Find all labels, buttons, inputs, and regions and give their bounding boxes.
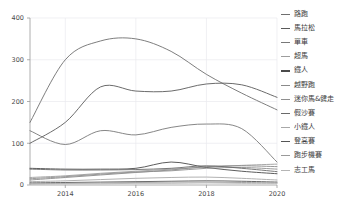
legend-label: 路跑	[294, 11, 308, 18]
y-tick-label: 300	[12, 56, 24, 64]
x-tick-label: 2018	[198, 190, 215, 198]
y-tick-label: 100	[12, 140, 24, 148]
legend-label: 鐵人	[294, 67, 308, 74]
legend-line-swatch	[281, 56, 290, 57]
legend-line-swatch	[281, 113, 290, 114]
legend-label: 小鐵人	[294, 124, 315, 131]
legend-line-swatch	[281, 141, 290, 142]
legend-label: 迷你馬&健走	[294, 96, 334, 103]
legend-line-swatch	[281, 42, 290, 43]
legend-label: 越野跑	[294, 82, 315, 89]
legend-item[interactable]: 登高賽	[281, 135, 347, 149]
x-tick-label: 2014	[57, 190, 74, 198]
legend-line-swatch	[281, 170, 290, 171]
chart-legend: 路跑馬拉松單車超馬鐵人越野跑迷你馬&健走假沙賽小鐵人登高賽跑步機賽志工馬	[281, 7, 347, 177]
series-line	[30, 38, 277, 123]
legend-line-swatch	[281, 155, 290, 156]
legend-item[interactable]: 迷你馬&健走	[281, 92, 347, 106]
legend-item[interactable]: 路跑	[281, 7, 347, 21]
legend-item[interactable]: 跑步機賽	[281, 149, 347, 163]
legend-line-swatch	[281, 14, 290, 15]
legend-item[interactable]: 馬拉松	[281, 21, 347, 35]
legend-line-swatch	[281, 99, 290, 100]
legend-label: 假沙賽	[294, 110, 315, 117]
legend-label: 超馬	[294, 53, 308, 60]
legend-item[interactable]: 假沙賽	[281, 106, 347, 120]
x-tick-label: 2016	[128, 190, 145, 198]
legend-label: 單車	[294, 39, 308, 46]
legend-item[interactable]: 超馬	[281, 50, 347, 64]
legend-item[interactable]: 越野跑	[281, 78, 347, 92]
legend-item[interactable]: 志工馬	[281, 163, 347, 177]
legend-item[interactable]: 單車	[281, 35, 347, 49]
y-tick-label: 0	[20, 181, 24, 189]
legend-label: 登高賽	[294, 138, 315, 145]
legend-item[interactable]: 小鐵人	[281, 121, 347, 135]
y-tick-label: 400	[12, 14, 24, 22]
legend-line-swatch	[281, 28, 290, 29]
legend-line-swatch	[281, 85, 290, 86]
legend-item[interactable]: 鐵人	[281, 64, 347, 78]
line-chart: 01002003004002014201620182020 路跑馬拉松單車超馬鐵…	[0, 0, 349, 215]
legend-label: 跑步機賽	[294, 152, 322, 159]
legend-line-swatch	[281, 127, 290, 128]
x-tick-label: 2020	[269, 190, 286, 198]
y-tick-label: 200	[12, 98, 24, 106]
legend-label: 志工馬	[294, 167, 315, 174]
legend-line-swatch	[281, 70, 290, 72]
legend-label: 馬拉松	[294, 25, 315, 32]
